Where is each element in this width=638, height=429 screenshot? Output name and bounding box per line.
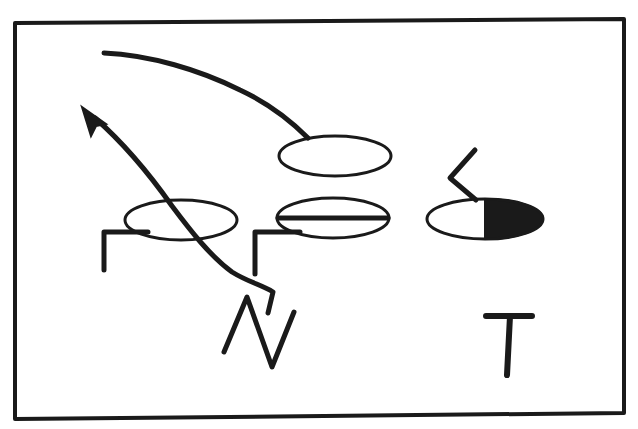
block-mark-right — [450, 150, 476, 200]
letter-n — [224, 297, 294, 367]
route-curve-top — [104, 53, 308, 138]
block-mark-left — [104, 232, 148, 270]
diagram-caption — [0, 421, 638, 429]
player-right-filled-half — [485, 199, 543, 239]
play-diagram — [0, 0, 638, 429]
player-top-center-oval — [279, 136, 391, 176]
letter-t — [486, 316, 532, 375]
route-arrow-line — [95, 118, 273, 313]
arrowhead-icon — [82, 107, 106, 136]
block-mark-center — [255, 232, 300, 274]
